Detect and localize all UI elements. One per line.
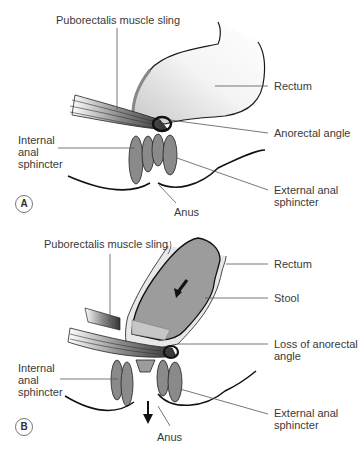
label-external-anal-sphincter-line1: External anal [274,184,338,196]
label-anorectal-angle: Anorectal angle [274,127,350,139]
label-puborectalis-muscle-sling: Puborectalis muscle sling [44,238,168,250]
label-internal-anal-sphincter-line3: sphincter [18,158,63,170]
label-internal-anal-sphincter-line2: anal [18,374,39,386]
label-external-anal-sphincter-line2: sphincter [274,196,319,208]
label-external-anal-sphincter-line2: sphincter [274,419,319,431]
label-anus: Anus [157,431,182,443]
label-internal-anal-sphincter-line1: Internal [18,134,55,146]
label-internal-anal-sphincter-line1: Internal [18,362,55,374]
sphincters-a [129,134,177,184]
label-internal-anal-sphincter-line3: sphincter [18,386,63,398]
label-puborectalis-muscle-sling: Puborectalis muscle sling [56,14,180,26]
label-rectum: Rectum [274,258,312,270]
label-loss-of-anorectal-angle-line1: Loss of anorectal [274,338,358,350]
label-internal-anal-sphincter-line2: anal [18,146,39,158]
panel-badge-a: A [15,195,33,213]
label-rectum: Rectum [274,80,312,92]
panel-a-normal: Puborectalis muscle sling Rectum Anorect… [0,0,364,226]
label-external-anal-sphincter-line1: External anal [274,407,338,419]
panel-badge-b: B [15,418,33,436]
label-stool: Stool [274,292,299,304]
label-anus: Anus [174,206,199,218]
panel-b-defecation: Puborectalis muscle sling Rectum Stool L… [0,226,364,453]
label-loss-of-anorectal-angle-line2: angle [274,350,301,362]
arrow-down-anus-icon [143,414,153,424]
